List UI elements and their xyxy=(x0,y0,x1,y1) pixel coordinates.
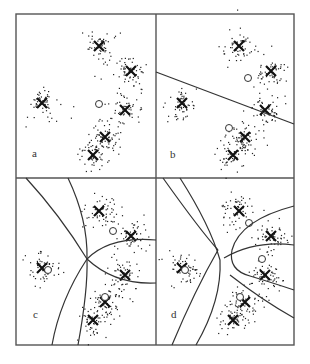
figure-frame xyxy=(16,14,294,345)
prototypes xyxy=(45,75,266,301)
clustering-figure: a b c d xyxy=(0,0,310,364)
panel-label-d: d xyxy=(171,308,177,320)
panel-label-a: a xyxy=(32,147,37,159)
panel-label-b: b xyxy=(170,148,176,160)
panel-label-c: c xyxy=(33,308,38,320)
boundaries-c xyxy=(26,178,156,345)
